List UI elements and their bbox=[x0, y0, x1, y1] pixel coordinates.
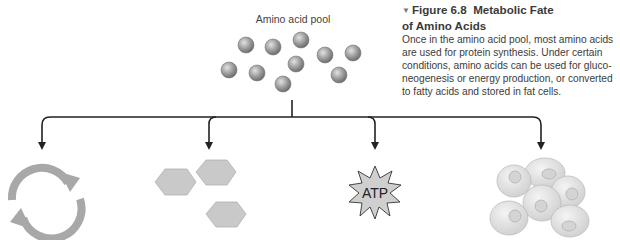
branch-line-3 bbox=[368, 117, 375, 143]
fat-cells-icon bbox=[490, 158, 589, 237]
branch-arrows bbox=[42, 100, 541, 143]
hexagon-glucose-icon bbox=[155, 160, 246, 227]
amino-acid-sphere-icon bbox=[265, 39, 281, 55]
arrowhead-icon bbox=[205, 142, 213, 150]
arrowhead-icon bbox=[371, 142, 379, 150]
nucleus bbox=[509, 171, 521, 183]
amino-acid-sphere-icon bbox=[275, 76, 291, 92]
amino-acid-sphere-icon bbox=[288, 56, 304, 72]
amino-acid-sphere-icon bbox=[331, 67, 347, 83]
branch-line-2 bbox=[209, 117, 216, 143]
atp-label: ATP bbox=[362, 185, 388, 201]
amino-acid-pool bbox=[221, 32, 361, 92]
nucleus bbox=[509, 210, 521, 222]
metabolic-fate-diagram: ATP bbox=[0, 0, 620, 240]
arrowhead-icon bbox=[537, 142, 545, 150]
branch-line bbox=[50, 117, 541, 143]
recycle-arrowhead-icon bbox=[10, 208, 31, 229]
nucleus bbox=[535, 200, 547, 212]
amino-acid-sphere-icon bbox=[249, 65, 265, 81]
nucleus bbox=[562, 221, 576, 231]
amino-acid-sphere-icon bbox=[317, 47, 333, 63]
nucleus bbox=[566, 188, 578, 200]
amino-acid-sphere-icon bbox=[238, 37, 254, 53]
atp-burst-icon: ATP bbox=[349, 166, 401, 219]
branch-line-left bbox=[42, 117, 50, 143]
hexagon-icon bbox=[206, 202, 246, 227]
amino-acid-sphere-icon bbox=[293, 32, 309, 48]
hexagon-icon bbox=[155, 169, 196, 195]
nucleus bbox=[542, 169, 556, 179]
arrowhead-icon bbox=[38, 142, 46, 150]
amino-acid-sphere-icon bbox=[345, 45, 361, 61]
arrowheads bbox=[38, 142, 545, 150]
amino-acid-sphere-icon bbox=[221, 62, 237, 78]
hexagon-icon bbox=[196, 160, 236, 185]
